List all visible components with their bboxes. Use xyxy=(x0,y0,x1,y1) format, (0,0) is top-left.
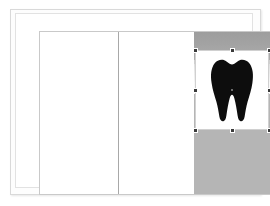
media-panel[interactable] xyxy=(194,32,270,194)
left-column[interactable] xyxy=(40,32,118,194)
handle-ne[interactable] xyxy=(267,48,270,53)
handle-nw[interactable] xyxy=(194,48,198,53)
left-column-text xyxy=(40,32,41,33)
page-content-frame xyxy=(39,31,270,195)
handle-n[interactable] xyxy=(230,48,235,53)
middle-column-text xyxy=(119,32,120,33)
document-workspace xyxy=(0,0,270,206)
middle-column[interactable] xyxy=(119,32,194,194)
handle-sw[interactable] xyxy=(194,128,198,133)
handle-s[interactable] xyxy=(230,128,235,133)
document-page[interactable] xyxy=(15,13,253,188)
handle-e[interactable] xyxy=(267,88,270,93)
handle-w[interactable] xyxy=(194,88,198,93)
handle-center[interactable] xyxy=(231,89,233,91)
handle-se[interactable] xyxy=(267,128,270,133)
